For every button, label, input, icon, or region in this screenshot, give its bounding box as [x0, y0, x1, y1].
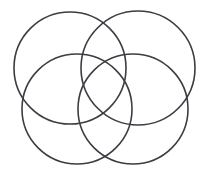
four-circles-diagram: [0, 0, 211, 175]
